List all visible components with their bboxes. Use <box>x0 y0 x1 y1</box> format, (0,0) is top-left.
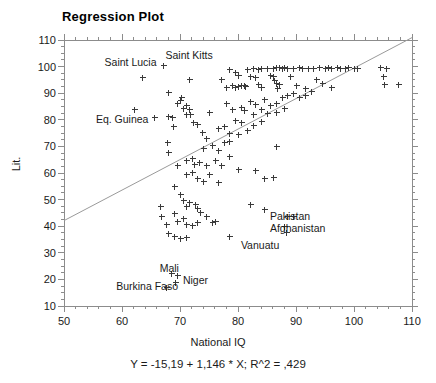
scatter-points <box>132 63 402 291</box>
data-point-marker <box>343 66 349 72</box>
x-tick-label: 60 <box>116 315 128 327</box>
data-point-marker <box>175 219 181 225</box>
data-point-marker <box>251 123 257 129</box>
data-point-marker <box>158 204 164 210</box>
data-point-marker <box>171 124 177 130</box>
data-point-marker <box>222 124 228 130</box>
point-annotation-label: Vanuatu <box>241 239 279 251</box>
data-point-marker <box>227 67 233 73</box>
y-tick-label: 100 <box>22 61 56 73</box>
data-point-marker <box>195 176 201 182</box>
data-point-marker <box>132 107 138 113</box>
data-point-marker <box>187 77 193 83</box>
data-point-marker <box>256 67 262 73</box>
data-point-marker <box>271 175 277 181</box>
data-point-marker <box>140 75 146 81</box>
data-point-marker <box>152 115 158 121</box>
y-tick-label: 90 <box>22 87 56 99</box>
point-annotation-label: Saint Kitts <box>166 49 213 61</box>
y-tick-label: 80 <box>22 114 56 126</box>
data-point-marker <box>236 84 242 90</box>
data-point-marker <box>187 200 193 206</box>
data-point-marker <box>384 66 390 72</box>
data-point-marker <box>210 220 216 226</box>
data-point-marker <box>303 86 309 92</box>
y-tick-label: 110 <box>22 34 56 46</box>
data-point-marker <box>200 130 206 136</box>
data-point-marker <box>178 236 184 242</box>
data-point-marker <box>175 101 181 107</box>
data-point-marker <box>265 66 271 72</box>
data-point-marker <box>184 235 190 241</box>
data-point-marker <box>204 136 210 142</box>
data-point-marker <box>355 66 361 72</box>
data-point-marker <box>172 184 178 190</box>
data-point-marker <box>219 77 225 83</box>
data-point-marker <box>207 110 213 116</box>
data-point-marker <box>282 106 288 112</box>
data-point-marker <box>179 95 185 101</box>
data-point-marker <box>297 65 303 71</box>
point-annotation-label: Afghanistan <box>270 222 325 234</box>
data-point-marker <box>181 198 187 204</box>
y-tick-label: 10 <box>22 300 56 312</box>
data-point-marker <box>242 83 248 89</box>
data-point-marker <box>207 172 213 178</box>
data-point-marker <box>329 66 335 72</box>
data-point-marker <box>213 219 219 225</box>
data-point-marker <box>178 192 184 198</box>
data-point-marker <box>242 108 248 114</box>
data-point-marker <box>317 65 323 71</box>
y-tick-label: 70 <box>22 140 56 152</box>
data-point-marker <box>190 223 196 229</box>
data-point-marker <box>265 111 271 117</box>
data-point-marker <box>245 67 251 73</box>
data-point-marker <box>224 85 230 91</box>
data-point-marker <box>166 114 172 120</box>
y-tick-label: 50 <box>22 194 56 206</box>
data-point-marker <box>184 204 190 210</box>
data-point-marker <box>382 82 388 88</box>
data-point-marker <box>291 91 297 97</box>
y-axis-label: Lit. <box>10 144 22 184</box>
data-point-marker <box>216 148 222 154</box>
data-point-marker <box>166 90 172 96</box>
data-point-marker <box>204 214 210 220</box>
page-title: Regression Plot <box>62 9 164 24</box>
data-point-marker <box>164 222 170 228</box>
data-point-marker <box>165 140 171 146</box>
data-point-marker <box>253 102 259 108</box>
data-point-marker <box>243 84 249 90</box>
data-point-marker <box>201 179 207 185</box>
data-point-marker <box>378 65 384 71</box>
data-point-marker <box>271 66 277 72</box>
data-point-marker <box>236 73 242 79</box>
data-point-marker <box>172 211 178 217</box>
data-point-marker <box>303 93 309 99</box>
data-point-marker <box>184 222 190 228</box>
data-point-marker <box>335 65 341 71</box>
regression-equation: Y = -15,19 + 1,146 * X; R^2 = ,429 <box>0 358 436 370</box>
x-tick-label: 50 <box>58 315 70 327</box>
data-point-marker <box>259 107 265 113</box>
data-point-marker <box>204 163 210 169</box>
data-point-marker <box>253 168 259 174</box>
data-point-marker <box>175 163 181 169</box>
data-point-marker <box>248 74 254 80</box>
data-point-marker <box>259 119 265 125</box>
x-tick-label: 110 <box>403 315 421 327</box>
point-annotation-label: Mali <box>160 262 179 274</box>
data-point-marker <box>181 216 187 222</box>
data-point-marker <box>184 158 190 164</box>
point-annotation-label: Eq. Guinea <box>96 113 149 125</box>
data-point-marker <box>285 66 291 72</box>
data-point-marker <box>187 107 193 113</box>
data-point-marker <box>256 82 262 88</box>
y-tick-label: 30 <box>22 247 56 259</box>
data-point-marker <box>314 77 320 83</box>
data-point-marker <box>291 66 297 72</box>
data-point-marker <box>311 66 317 72</box>
data-point-marker <box>262 176 268 182</box>
data-point-marker <box>259 85 265 91</box>
data-point-marker <box>178 98 184 104</box>
